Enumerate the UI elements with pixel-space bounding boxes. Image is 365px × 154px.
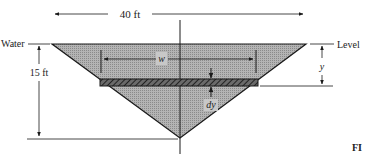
dy-label: dy (206, 99, 216, 110)
y-label: y (319, 61, 325, 72)
triangle-tank (52, 44, 306, 138)
level-label: Level (337, 39, 360, 50)
top-width-label: 40 ft (120, 8, 140, 20)
height-label: 15 ft (30, 67, 49, 78)
horizontal-strip (100, 79, 258, 86)
water-label: Water (1, 38, 25, 49)
tank-diagram: 40 ft Water 15 ft w dy Level y FI (0, 0, 365, 154)
figure-label-fragment: FI (352, 142, 362, 153)
w-label: w (158, 53, 165, 64)
